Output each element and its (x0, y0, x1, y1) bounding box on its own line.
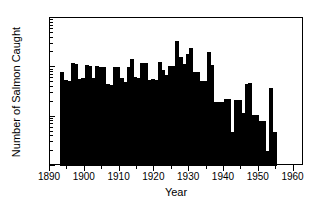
y-tick-minor (49, 74, 53, 75)
x-tick-minor (275, 165, 276, 169)
y-tick-minor (49, 118, 53, 119)
x-tick-minor (206, 165, 207, 169)
y-tick-minor (49, 150, 53, 151)
y-tick-minor (49, 43, 53, 44)
x-tick-label: 1960 (273, 171, 313, 182)
y-tick-minor (49, 19, 53, 20)
y-tick-minor (49, 92, 53, 93)
y-tick-minor (49, 135, 53, 136)
y-axis-title: Number of Salmon Caught (8, 12, 24, 172)
bar (273, 132, 277, 166)
y-tick-minor (49, 123, 53, 124)
y-tick-minor (49, 32, 53, 33)
y-tick-minor (49, 131, 53, 132)
y-tick-major (49, 116, 55, 117)
x-axis-title: Year (49, 186, 303, 199)
y-tick-minor (49, 71, 53, 72)
x-tick-minor (101, 165, 102, 169)
plot-area (49, 17, 303, 165)
y-tick-minor (49, 101, 53, 102)
x-tick-minor (240, 165, 241, 169)
y-tick-minor (49, 51, 53, 52)
y-tick-minor (49, 25, 53, 26)
y-tick-minor (49, 37, 53, 38)
y-tick-minor (49, 28, 53, 29)
y-tick-minor (49, 86, 53, 87)
y-tick-minor (49, 127, 53, 128)
y-tick-major (49, 17, 55, 18)
chart-figure: Number of Salmon Caught 1000100101 18901… (0, 0, 321, 207)
x-tick-minor (66, 165, 67, 169)
y-tick-minor (49, 69, 53, 70)
y-tick-minor (49, 22, 53, 23)
y-tick-minor (49, 141, 53, 142)
bars-layer (50, 18, 304, 166)
x-tick-minor (171, 165, 172, 169)
y-tick-minor (49, 81, 53, 82)
y-tick-minor (49, 77, 53, 78)
x-tick-minor (136, 165, 137, 169)
y-tick-major (49, 66, 55, 67)
y-tick-minor (49, 120, 53, 121)
